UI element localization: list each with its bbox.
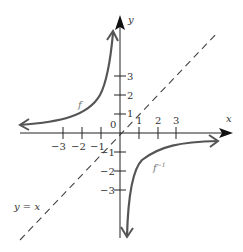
x-tick-label: 1 <box>136 115 142 126</box>
f-inverse-label-sup: −1 <box>157 161 166 168</box>
identity-line <box>20 32 218 240</box>
y-tick-label: −2 <box>100 166 115 177</box>
y-tick-label: 1 <box>127 108 133 119</box>
f-curve <box>20 33 113 125</box>
y-tick-label: 2 <box>127 90 133 101</box>
y-axis-label: y <box>127 14 134 25</box>
x-axis-label: x <box>226 113 232 124</box>
f-label: f <box>77 99 84 110</box>
f-inverse-curve <box>127 141 218 236</box>
x-tick-label: −3 <box>51 141 66 152</box>
x-tick-label: 3 <box>173 115 179 126</box>
f-inverse-label: f−1 <box>152 161 166 173</box>
origin-label: 0 <box>110 119 116 130</box>
y-tick-label: −1 <box>100 147 115 158</box>
x-tick-label: −2 <box>71 141 86 152</box>
function-inverse-plot: −3 −2 −1 1 2 3 3 2 1 −1 −2 −3 0 x y f f−… <box>0 0 243 252</box>
x-tick-label: 2 <box>155 115 161 126</box>
y-tick-label: −3 <box>100 185 115 196</box>
y-tick-label: 3 <box>127 71 133 82</box>
identity-line-label: y = x <box>13 201 40 212</box>
